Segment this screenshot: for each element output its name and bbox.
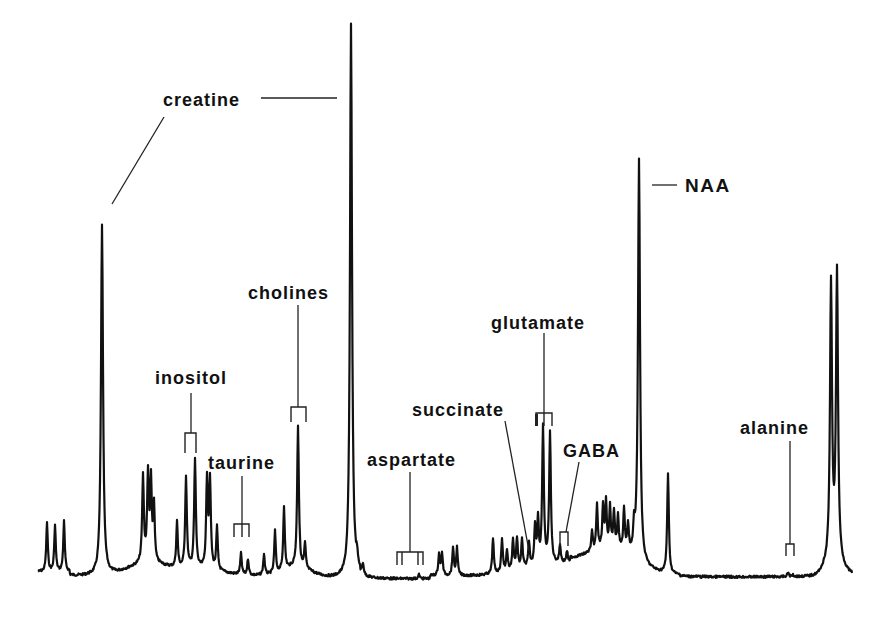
annotation-naa: NAA <box>652 175 731 196</box>
label-naa: NAA <box>685 175 731 196</box>
multiplet-marker-gaba <box>560 532 568 546</box>
label-taurine: taurine <box>208 453 275 473</box>
label-cholines: cholines <box>248 283 329 303</box>
multiplet-marker-cholines <box>291 407 306 422</box>
label-succinate: succinate <box>412 400 504 420</box>
multiplet-marker-alanine <box>786 544 794 556</box>
spectrum-trace <box>38 24 852 580</box>
multiplet-marker-inositol <box>185 433 196 453</box>
label-glutamate: glutamate <box>491 313 585 333</box>
multiplet-marker-aspartate <box>397 552 423 565</box>
annotation-glutamate: glutamate <box>491 313 585 426</box>
label-aspartate: aspartate <box>367 450 456 470</box>
nmr-spectrum-figure: creatine cholines inositol taurine aspar… <box>0 0 873 617</box>
leader-line-succinate <box>505 421 529 551</box>
annotation-creatine: creatine <box>112 90 337 204</box>
annotation-inositol: inositol <box>155 368 227 453</box>
leader-line-creatine-left <box>112 117 164 204</box>
multiplet-marker-taurine <box>234 524 249 537</box>
label-gaba: GABA <box>563 441 620 461</box>
annotation-cholines: cholines <box>248 283 329 422</box>
annotation-aspartate: aspartate <box>367 450 456 565</box>
label-creatine: creatine <box>163 90 240 110</box>
leader-line-gaba <box>566 462 579 532</box>
multiplet-marker-glutamate <box>536 413 552 426</box>
label-alanine: alanine <box>740 418 809 438</box>
label-inositol: inositol <box>155 368 227 388</box>
multiplet-marker-glutamate-fill <box>535 414 538 426</box>
annotation-succinate: succinate <box>412 400 529 551</box>
annotation-alanine: alanine <box>740 418 809 556</box>
